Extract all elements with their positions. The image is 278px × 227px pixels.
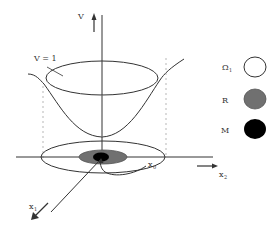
legend-label-r: R	[222, 96, 229, 105]
legend-item-m: M	[221, 119, 266, 139]
legend-swatch-omega1	[244, 57, 266, 77]
legend-label-omega1-sub: 1	[229, 67, 232, 73]
legend: Ω 1 R M	[221, 57, 266, 139]
legend-swatch-r	[244, 89, 266, 109]
x2-axis-arrow-icon	[197, 164, 218, 169]
x1-label-sub: 1	[34, 206, 37, 212]
lyapunov-diagram: V V = 1 x 0 x 1 x 2 Ω 1 R	[0, 0, 278, 227]
legend-item-r: R	[222, 89, 266, 109]
v-axis-label: V	[77, 12, 84, 21]
x2-label-sub: 2	[224, 174, 227, 180]
x0-label-sub: 0	[153, 164, 156, 170]
legend-swatch-m	[244, 119, 266, 139]
legend-label-m: M	[221, 126, 229, 135]
legend-item-omega1: Ω 1	[222, 57, 266, 77]
v-axis-arrow-icon	[92, 13, 97, 32]
level-set-label: V = 1	[33, 54, 57, 63]
legend-label-omega1: Ω	[222, 63, 229, 72]
